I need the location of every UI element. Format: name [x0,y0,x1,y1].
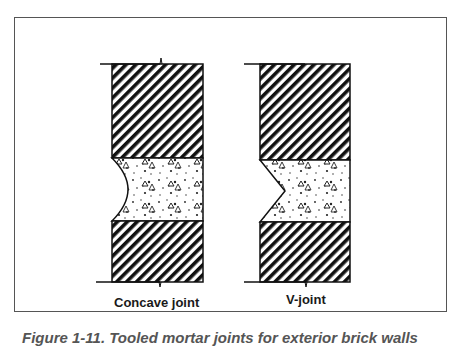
figure-caption: Figure 1-11. Tooled mortar joints for ex… [22,329,418,346]
concave-joint-label: Concave joint [114,295,199,310]
v-joint-label: V-joint [286,292,326,307]
v-joint-section [244,64,350,287]
concave-joint-section [96,58,203,287]
